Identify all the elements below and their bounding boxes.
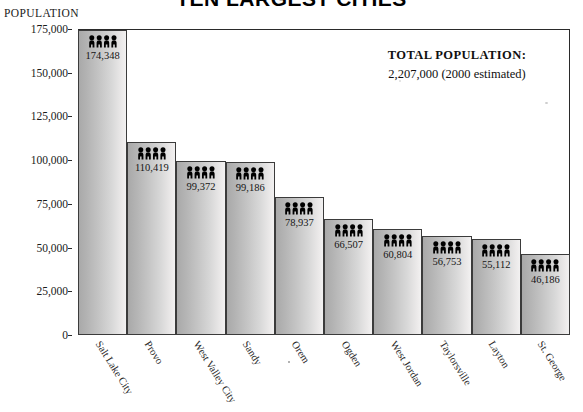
- bar-value-label: 110,419: [128, 162, 175, 173]
- bar[interactable]: 110,419: [127, 142, 176, 335]
- x-axis-label-slot: Salt Lake City: [78, 337, 127, 412]
- bar-value-label: 78,937: [276, 217, 323, 228]
- x-axis-label-slot: Ogden: [324, 337, 373, 412]
- people-icon: [423, 241, 470, 254]
- y-axis-tick-label: 75,000: [36, 198, 68, 210]
- x-axis-tick-label: Sandy: [241, 339, 264, 367]
- y-axis-tick-label: 25,000: [36, 285, 68, 297]
- x-axis-label-slot: West Valley City: [176, 337, 225, 412]
- people-icon: [522, 259, 569, 272]
- bar[interactable]: 99,372: [176, 161, 225, 335]
- x-axis-label-slot: Orem: [275, 337, 324, 412]
- bar-slot: 99,372: [176, 29, 225, 335]
- people-icon: [374, 234, 421, 247]
- y-axis-tick-label: 50,000: [36, 242, 68, 254]
- bar-value-label: 56,753: [423, 256, 470, 267]
- x-axis-tick-label: Layton: [487, 339, 512, 370]
- bar[interactable]: 66,507: [324, 219, 373, 335]
- chart-page: TEN LARGEST CITIES POPULATION 175,000150…: [0, 0, 583, 412]
- people-icon: [227, 167, 274, 180]
- x-axis-tick-label: Provo: [142, 339, 165, 366]
- y-axis-tick-mark: [68, 204, 72, 205]
- x-axis-label-slot: St. George: [521, 337, 570, 412]
- bar-value-label: 55,112: [473, 259, 520, 270]
- bar[interactable]: 99,186: [226, 162, 275, 335]
- scan-speck: [545, 102, 548, 104]
- y-axis-tick-mark: [68, 248, 72, 249]
- x-axis-tick-label: St. George: [536, 339, 569, 383]
- chart-title: TEN LARGEST CITIES: [0, 0, 583, 11]
- total-population-callout: TOTAL POPULATION: 2,207,000 (2000 estima…: [352, 46, 562, 85]
- bar-value-label: 99,186: [227, 182, 274, 193]
- bar[interactable]: 46,186: [521, 254, 570, 335]
- x-axis-label-slot: West Jordan: [373, 337, 422, 412]
- total-population-title: TOTAL POPULATION:: [352, 46, 562, 65]
- y-axis-tick-mark: [68, 73, 72, 74]
- x-axis-labels: Salt Lake CityProvoWest Valley CitySandy…: [78, 337, 570, 412]
- bar-value-label: 174,348: [79, 50, 126, 61]
- bar[interactable]: 78,937: [275, 197, 324, 335]
- y-axis-tick-mark: [68, 116, 72, 117]
- bar[interactable]: 174,348: [78, 30, 127, 335]
- total-population-value: 2,207,000 (2000 estimated): [352, 65, 562, 84]
- x-axis-label-slot: Sandy: [226, 337, 275, 412]
- bar-value-label: 46,186: [522, 274, 569, 285]
- bar-value-label: 99,372: [177, 181, 224, 192]
- y-axis-tick-label: 175,000: [31, 23, 68, 35]
- bar[interactable]: 56,753: [422, 236, 471, 335]
- people-icon: [276, 202, 323, 215]
- bar-slot: 99,186: [226, 29, 275, 335]
- x-axis-label-slot: Taylorsville: [422, 337, 471, 412]
- bar[interactable]: 60,804: [373, 229, 422, 335]
- scan-speck: [288, 361, 290, 363]
- x-axis-tick-label: Ogden: [339, 339, 363, 369]
- people-icon: [79, 35, 126, 48]
- people-icon: [325, 224, 372, 237]
- x-axis-tick-label: Orem: [290, 339, 312, 365]
- y-axis-tick-mark: [68, 29, 72, 30]
- bar-slot: 78,937: [275, 29, 324, 335]
- y-axis-tick-label: 100,000: [31, 154, 68, 166]
- bar-slot: 174,348: [78, 29, 127, 335]
- y-axis: 175,000150,000125,000100,00075,00050,000…: [0, 0, 78, 412]
- x-axis-tick-label: West Jordan: [388, 339, 425, 388]
- y-axis-tick-mark: [68, 335, 72, 336]
- x-axis-label-slot: Provo: [127, 337, 176, 412]
- bar-value-label: 60,804: [374, 249, 421, 260]
- bar-value-label: 66,507: [325, 239, 372, 250]
- x-axis-tick-label: Taylorsville: [438, 339, 474, 387]
- y-axis-tick-label: 150,000: [31, 67, 68, 79]
- people-icon: [473, 244, 520, 257]
- people-icon: [177, 166, 224, 179]
- y-axis-tick-label: 125,000: [31, 110, 68, 122]
- y-axis-tick-mark: [68, 160, 72, 161]
- people-icon: [128, 147, 175, 160]
- bar[interactable]: 55,112: [472, 239, 521, 335]
- y-axis-tick-mark: [68, 291, 72, 292]
- x-axis-label-slot: Layton: [472, 337, 521, 412]
- bar-slot: 110,419: [127, 29, 176, 335]
- scan-speck: [399, 80, 401, 82]
